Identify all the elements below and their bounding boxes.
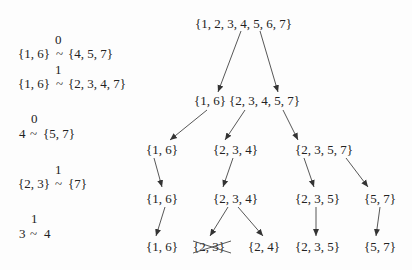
tree-node-l3-3: {5, 7} bbox=[364, 192, 396, 206]
tree-node-l2-0: {1, 6} bbox=[146, 143, 178, 157]
tree-node-l4-0: {1, 6} bbox=[146, 240, 178, 254]
tree-node-l3-2: {2, 3, 5} bbox=[295, 192, 340, 206]
tree-node-l4-2: {2, 4} bbox=[248, 240, 280, 254]
tree-node-l4-crossed: {2, 3} bbox=[193, 240, 225, 254]
tree-node-l4-4: {5, 7} bbox=[364, 240, 396, 254]
tree-node-l3-1: {2, 3, 4} bbox=[213, 192, 258, 206]
tree-node-l2-2: {2, 3, 5, 7} bbox=[295, 143, 353, 157]
tree-root: {1, 2, 3, 4, 5, 6, 7} bbox=[195, 17, 292, 31]
tree-edges bbox=[0, 0, 412, 270]
tree-node-l2-1: {2, 3, 4} bbox=[213, 143, 258, 157]
tree-node-l3-0: {1, 6} bbox=[146, 192, 178, 206]
tree-node-l1-0: {1, 6} bbox=[194, 94, 226, 108]
cross-out-icon bbox=[191, 239, 235, 255]
tree-node-l1-1: {2, 3, 4, 5, 7} bbox=[229, 94, 300, 108]
tree-node-l4-3: {2, 3, 5} bbox=[295, 240, 340, 254]
